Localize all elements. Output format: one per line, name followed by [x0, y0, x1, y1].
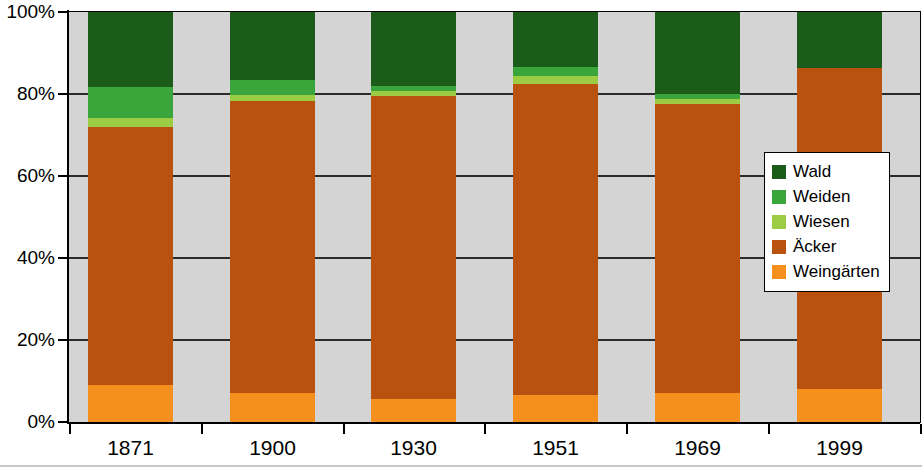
gridline — [69, 93, 920, 95]
legend-swatch-icon — [772, 165, 786, 179]
bar-segment-wald-1999 — [797, 12, 882, 68]
y-tick-mark — [58, 175, 67, 177]
gridline — [69, 339, 920, 341]
bar-segment-weiden-1871 — [88, 87, 173, 118]
y-tick-mark — [58, 339, 67, 341]
x-tick-mark — [69, 424, 71, 434]
bar-1969 — [655, 12, 740, 422]
legend-label: Wiesen — [793, 213, 850, 230]
bar-segment-weingrten-1969 — [655, 393, 740, 422]
bar-segment-wald-1951 — [513, 12, 598, 67]
y-tick-label: 100% — [6, 2, 55, 21]
legend-item: Weingärten — [772, 259, 882, 284]
bar-segment-wald-1930 — [371, 12, 456, 86]
x-tick-mark — [768, 424, 770, 434]
y-axis: 0%20%40%60%80%100% — [0, 0, 64, 467]
y-tick-mark — [58, 421, 67, 423]
chart-legend: WaldWeidenWiesenÄckerWeingärten — [764, 152, 890, 292]
bar-1930 — [371, 12, 456, 422]
bar-segment-cker-1969 — [655, 104, 740, 393]
y-tick-label: 80% — [17, 84, 55, 103]
x-tick-mark — [343, 424, 345, 434]
legend-item: Weiden — [772, 184, 882, 209]
legend-swatch-icon — [772, 190, 786, 204]
bar-segment-weingrten-1871 — [88, 385, 173, 422]
y-tick-mark — [58, 11, 67, 13]
bar-segment-weingrten-1900 — [230, 393, 315, 422]
y-tick-label: 20% — [17, 330, 55, 349]
bar-segment-wald-1900 — [230, 12, 315, 80]
x-tick-label-1999: 1999 — [816, 437, 863, 458]
x-tick-label-1969: 1969 — [674, 437, 721, 458]
legend-swatch-icon — [772, 215, 786, 229]
legend-label: Äcker — [793, 238, 836, 255]
y-tick-label: 60% — [17, 166, 55, 185]
legend-item: Wald — [772, 159, 882, 184]
bar-segment-weiden-1951 — [513, 67, 598, 75]
y-tick-label: 40% — [17, 248, 55, 267]
y-tick-mark — [58, 257, 67, 259]
bar-segment-wiesen-1871 — [88, 118, 173, 127]
bar-segment-wald-1969 — [655, 12, 740, 94]
x-tick-mark — [484, 424, 486, 434]
bar-segment-cker-1951 — [513, 84, 598, 396]
x-tick-label-1900: 1900 — [249, 437, 296, 458]
bar-1900 — [230, 12, 315, 422]
x-tick-label-1951: 1951 — [532, 437, 579, 458]
bar-segment-weiden-1900 — [230, 80, 315, 95]
legend-label: Wald — [793, 163, 831, 180]
y-tick-mark — [58, 93, 67, 95]
bar-segment-weingrten-1999 — [797, 389, 882, 422]
x-tick-label-1930: 1930 — [390, 437, 437, 458]
x-tick-mark — [201, 424, 203, 434]
bar-segment-wiesen-1951 — [513, 76, 598, 84]
stacked-bar-chart: 0%20%40%60%80%100% 187119001930195119691… — [0, 0, 922, 467]
legend-swatch-icon — [772, 240, 786, 254]
legend-swatch-icon — [772, 265, 786, 279]
bar-1951 — [513, 12, 598, 422]
legend-label: Weiden — [793, 188, 850, 205]
bar-segment-cker-1900 — [230, 101, 315, 393]
x-tick-label-1871: 1871 — [107, 437, 154, 458]
legend-item: Äcker — [772, 234, 882, 259]
bar-segment-wald-1871 — [88, 12, 173, 87]
legend-item: Wiesen — [772, 209, 882, 234]
y-tick-label: 0% — [28, 412, 55, 431]
bar-segment-cker-1930 — [371, 96, 456, 399]
bar-1871 — [88, 12, 173, 422]
bar-segment-weingrten-1930 — [371, 399, 456, 422]
legend-label: Weingärten — [793, 263, 880, 280]
bar-segment-cker-1871 — [88, 127, 173, 385]
x-tick-mark — [626, 424, 628, 434]
bar-segment-weingrten-1951 — [513, 395, 598, 422]
